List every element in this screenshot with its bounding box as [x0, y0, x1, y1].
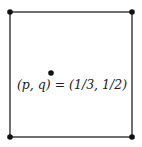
corner-dot-bottom-right: [129, 134, 135, 140]
corner-dot-top-left: [7, 9, 13, 15]
interior-point: [48, 70, 54, 76]
corner-dot-top-right: [129, 9, 135, 15]
diagram-canvas: (p, q) = (1/3, 1/2): [0, 0, 142, 147]
unit-square: [10, 12, 132, 137]
corner-dot-bottom-left: [7, 134, 13, 140]
point-label: (p, q) = (1/3, 1/2): [17, 77, 127, 92]
